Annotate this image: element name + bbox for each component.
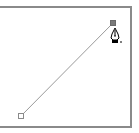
pen-tool-icon xyxy=(111,28,122,43)
anchor-point-start[interactable] xyxy=(19,114,24,119)
anchor-point-end[interactable] xyxy=(111,21,116,26)
path-segment[interactable] xyxy=(21,23,113,116)
path-artwork[interactable] xyxy=(0,0,139,133)
